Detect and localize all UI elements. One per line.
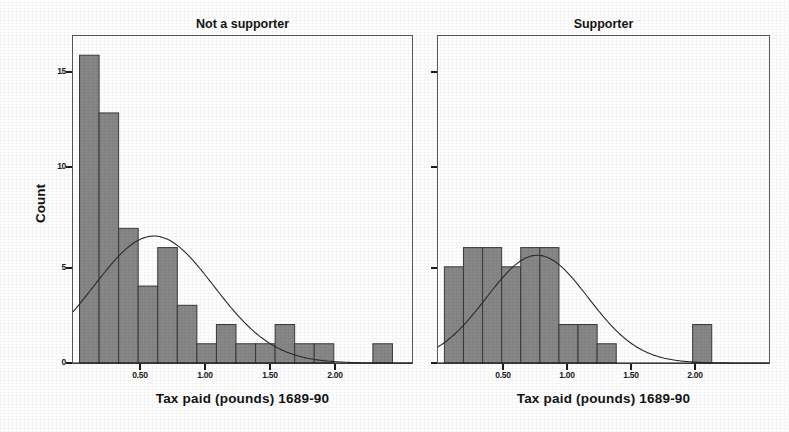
histogram-bar [444, 267, 463, 363]
plot-panel-not-a-supporter [72, 35, 413, 364]
histogram-bar [502, 267, 521, 363]
histogram-bar [158, 248, 178, 363]
histogram-bar [216, 325, 236, 363]
x-tick-label-right-150: 1.50 [606, 370, 656, 380]
x-tick-label-left-050: 0.50 [115, 370, 165, 380]
panel-title-not-a-supporter: Not a supporter [72, 17, 413, 31]
x-tick-label-right-050: 0.50 [478, 370, 528, 380]
x-tick-label-right-200: 2.00 [670, 370, 720, 380]
histogram-bar [99, 113, 119, 363]
histogram-bar [521, 248, 540, 363]
histogram-bar [578, 325, 597, 363]
histogram-figure: Count 15 10 5 0 Not a supporter 0.50 1.0… [0, 0, 789, 432]
histogram-bar [483, 248, 502, 363]
x-axis-title-left: Tax paid (pounds) 1689-90 [72, 391, 413, 406]
histogram-bar [693, 325, 712, 363]
histogram-bar [540, 248, 559, 363]
histogram-bar [256, 344, 276, 363]
histogram-bar [463, 248, 482, 363]
plot-panel-supporter [437, 35, 770, 364]
histogram-bar [177, 305, 197, 363]
x-tick-label-left-150: 1.50 [245, 370, 295, 380]
histogram-bar [559, 325, 578, 363]
y-tick-label-0: 0 [40, 357, 66, 367]
histogram-bar [80, 55, 100, 363]
x-tick-label-left-100: 1.00 [180, 370, 230, 380]
x-tick-label-left-200: 2.00 [310, 370, 360, 380]
x-axis-title-right: Tax paid (pounds) 1689-90 [437, 391, 770, 406]
histogram-bar [197, 344, 217, 363]
y-tick-label-5: 5 [40, 262, 66, 272]
histogram-bar [373, 344, 393, 363]
histogram-bar [138, 286, 158, 363]
histogram-bar [295, 344, 315, 363]
histogram-bar [597, 344, 616, 363]
histogram-bar [236, 344, 256, 363]
histogram-bar [275, 325, 295, 363]
y-tick-label-10: 10 [40, 161, 66, 171]
x-tick-label-right-100: 1.00 [542, 370, 592, 380]
plot-area-left [72, 35, 413, 364]
histogram-bar [119, 228, 139, 363]
panel-title-supporter: Supporter [437, 17, 770, 31]
y-tick-label-15: 15 [40, 66, 66, 76]
plot-area-right [437, 35, 770, 364]
